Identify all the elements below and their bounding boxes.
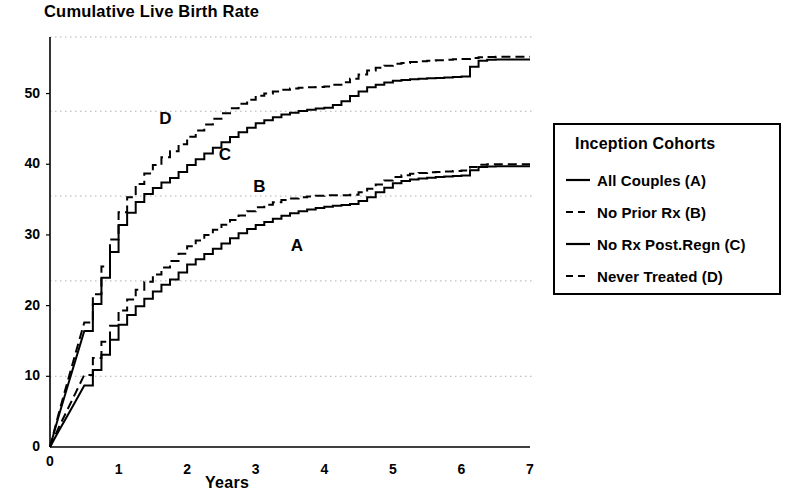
legend-item-no-prior-rx[interactable]: No Prior Rx (B) [565, 199, 706, 225]
y-axis-tick-label: 50 [6, 85, 40, 101]
y-axis-tick-label: 30 [6, 226, 40, 242]
legend-item-label: No Prior Rx (B) [597, 204, 706, 221]
y-axis-tick-label: 10 [6, 367, 40, 383]
legend-swatch-dashed-icon [565, 205, 591, 219]
x-axis-title: Years [205, 474, 249, 492]
legend-swatch-solid-icon [565, 237, 591, 251]
series-line-a [50, 166, 530, 447]
y-axis-tick-label: 0 [6, 438, 40, 454]
legend-item-all-couples[interactable]: All Couples (A) [565, 167, 706, 193]
x-axis-tick-label: 6 [449, 461, 473, 477]
curve-label-b: B [253, 177, 265, 197]
y-axis-tick-label: 20 [6, 297, 40, 313]
x-axis-tick-label: 1 [107, 461, 131, 477]
legend-item-never-treated[interactable]: Never Treated (D) [565, 263, 723, 289]
legend-item-no-rx-post-regn[interactable]: No Rx Post.Regn (C) [565, 231, 746, 257]
curve-label-a: A [291, 236, 303, 256]
chart-figure: Cumulative Live Birth Rate 01020304050 0… [0, 0, 798, 500]
x-axis-tick-label: 7 [518, 461, 542, 477]
legend-swatch-dashed-icon [565, 269, 591, 283]
legend: Inception Cohorts All Couples (A) No Pri… [553, 123, 781, 295]
x-axis-tick-label: 5 [381, 461, 405, 477]
legend-item-label: Never Treated (D) [597, 268, 723, 285]
x-axis-tick-label: 2 [175, 461, 199, 477]
legend-swatch-solid-icon [565, 173, 591, 187]
series-line-b [50, 164, 530, 447]
legend-item-label: All Couples (A) [597, 172, 706, 189]
legend-title: Inception Cohorts [575, 135, 715, 153]
curve-label-c: C [219, 145, 231, 165]
legend-item-label: No Rx Post.Regn (C) [597, 236, 746, 253]
x-axis-tick-label: 4 [312, 461, 336, 477]
x-axis-tick-label: 0 [38, 453, 62, 469]
curve-label-d: D [159, 109, 171, 129]
y-axis-tick-label: 40 [6, 155, 40, 171]
